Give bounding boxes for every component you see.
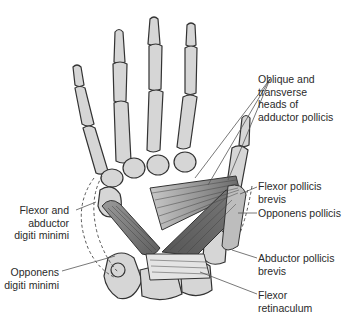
label-flexor-abductor-digiti-minimi: Flexor and abductor digiti minimi bbox=[14, 204, 69, 242]
middle-finger-bones bbox=[147, 17, 163, 152]
label-adductor-pollicis: Oblique and transverse heads of adductor… bbox=[258, 73, 333, 123]
flexor-digiti-minimi bbox=[102, 200, 160, 255]
label-opponens-digiti-minimi: Opponens digiti minimi bbox=[4, 266, 59, 291]
ring-finger-bones bbox=[113, 30, 131, 164]
index-finger-bones bbox=[177, 23, 197, 149]
little-finger-bones bbox=[73, 65, 108, 174]
label-abductor-pollicis-brevis: Abductor pollicis brevis bbox=[258, 252, 334, 277]
label-flexor-pollicis-brevis: Flexor pollicis brevis bbox=[258, 180, 322, 205]
label-flexor-retinaculum: Flexor retinaculum bbox=[258, 289, 312, 314]
label-opponens-pollicis: Opponens pollicis bbox=[258, 207, 341, 220]
